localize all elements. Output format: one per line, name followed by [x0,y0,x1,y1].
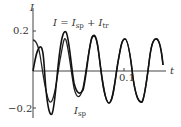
ytick-label-pos: 0.2 [13,26,29,36]
annotation-text: I = I [53,17,76,28]
isp-annotation: Isp [74,106,86,118]
annotation-sub: sp [78,110,86,118]
annotation-sub: tr [102,22,108,30]
annotation-text: + I [84,17,103,28]
series-total [33,32,163,115]
total-current-annotation: I = Isp + Itr [53,18,109,30]
annotation-sub: sp [76,22,84,30]
x-axis-label: t [170,66,174,76]
xtick-label: 0.1 [119,73,135,83]
ytick-label-neg: −0.2 [8,104,32,114]
y-axis-label: I [30,3,34,13]
